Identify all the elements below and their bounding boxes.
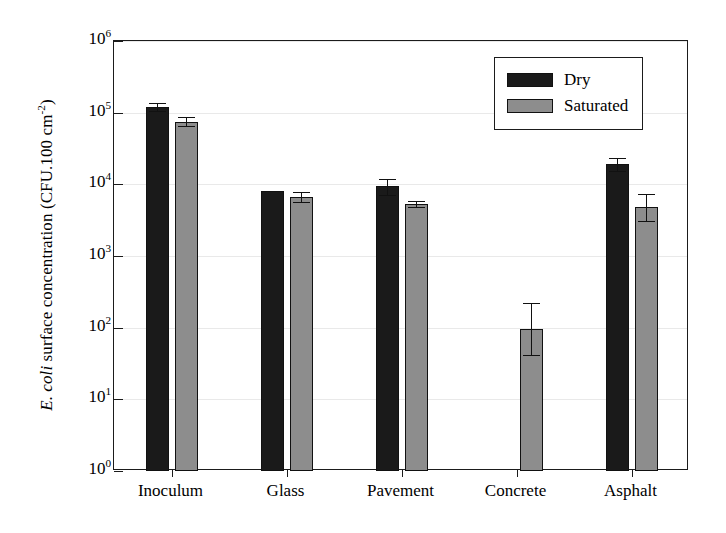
error-bar-cap-upper: [523, 303, 540, 304]
legend-label-dry: Dry: [564, 70, 590, 90]
y-axis-tick-label: 100: [0, 459, 111, 479]
error-bar-cap-lower: [149, 111, 166, 112]
error-bar-cap-upper: [609, 158, 626, 159]
figure-chart: E. coli surface concentration (CFU.100 c…: [0, 0, 726, 533]
bar-inoculum-dry: [146, 107, 169, 471]
legend-item-dry: Dry: [507, 67, 632, 93]
y-axis-tick-label: 106: [0, 29, 111, 49]
y-axis-tick: [114, 41, 123, 42]
y-axis-tick: [114, 256, 123, 257]
error-bar-cap-lower: [408, 207, 425, 208]
error-bar-line: [531, 303, 532, 355]
error-bar-line: [157, 103, 158, 111]
bar-asphalt-saturated: [635, 207, 658, 471]
gridline: [114, 184, 687, 185]
error-bar-line: [387, 179, 388, 195]
y-axis-tick-label: 102: [0, 316, 111, 336]
error-bar-cap-lower: [609, 171, 626, 172]
error-bar-cap-upper: [149, 103, 166, 104]
gridline: [114, 41, 687, 42]
bar-inoculum-saturated: [175, 122, 198, 471]
bar-glass-dry: [261, 191, 284, 471]
gridline: [114, 399, 687, 400]
y-axis-tick: [114, 113, 123, 114]
legend-swatch-saturated: [507, 99, 553, 113]
x-axis-tick: [287, 469, 288, 477]
error-bar-line: [301, 192, 302, 202]
y-axis-tick-label: 104: [0, 172, 111, 192]
gridline: [114, 328, 687, 329]
x-axis-tick: [632, 469, 633, 477]
x-axis-tick: [172, 469, 173, 477]
error-bar-line: [617, 158, 618, 170]
y-axis-tick-label: 103: [0, 244, 111, 264]
error-bar-line: [646, 194, 647, 221]
error-bar-line: [186, 117, 187, 126]
error-bar-cap-upper: [379, 179, 396, 180]
error-bar-cap-lower: [638, 221, 655, 222]
error-bar-cap-upper: [638, 194, 655, 195]
y-axis-tick: [114, 399, 123, 400]
y-axis-tick-label: 105: [0, 101, 111, 121]
legend-swatch-dry: [507, 73, 553, 87]
error-bar-cap-lower: [293, 202, 310, 203]
y-axis-tick: [114, 471, 123, 472]
bar-pavement-dry: [376, 186, 399, 471]
error-bar-cap-lower: [379, 195, 396, 196]
y-axis-tick: [114, 328, 123, 329]
error-bar-cap-upper: [178, 117, 195, 118]
error-bar-cap-lower: [178, 126, 195, 127]
legend-item-saturated: Saturated: [507, 93, 632, 119]
legend-box: Dry Saturated: [494, 57, 643, 130]
bar-pavement-saturated: [405, 204, 428, 471]
legend-label-saturated: Saturated: [564, 96, 628, 116]
gridline: [114, 256, 687, 257]
error-bar-cap-upper: [293, 192, 310, 193]
y-axis-tick-label: 101: [0, 387, 111, 407]
error-bar-cap-upper: [408, 201, 425, 202]
y-axis-tick: [114, 184, 123, 185]
x-axis-tick: [517, 469, 518, 477]
x-axis-tick-label: Asphalt: [551, 481, 711, 501]
error-bar-cap-lower: [523, 355, 540, 356]
bar-glass-saturated: [290, 197, 313, 471]
x-axis-tick: [402, 469, 403, 477]
bar-asphalt-dry: [606, 164, 629, 471]
